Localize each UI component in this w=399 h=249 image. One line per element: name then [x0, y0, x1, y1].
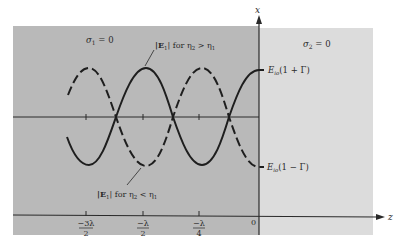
- standing-wave-diagram: x z −3λ 2 −λ 2 −λ 4 0 σ1 = 0 σ2 = 0 |E1|: [0, 0, 399, 249]
- origin-label: 0: [251, 218, 256, 227]
- svg-text:4: 4: [196, 229, 201, 238]
- x-axis-label: x: [255, 5, 260, 15]
- min-level-label: Eio(1 − Γ): [266, 162, 309, 173]
- region-2-medium: [259, 28, 373, 235]
- svg-text:−3λ: −3λ: [78, 219, 95, 228]
- svg-text:2: 2: [140, 229, 145, 238]
- svg-text:2: 2: [83, 229, 88, 238]
- max-level-label: Eio(1 + Γ): [267, 65, 310, 76]
- x-axis-arrow-icon: [256, 15, 262, 24]
- z-axis-arrow-icon: [376, 214, 385, 220]
- region-1-medium: [13, 26, 259, 235]
- svg-text:−λ: −λ: [193, 219, 205, 228]
- svg-text:−λ: −λ: [137, 219, 149, 228]
- z-axis-label: z: [387, 212, 393, 222]
- region-1-label: σ1 = 0: [86, 35, 114, 46]
- region-2-label: σ2 = 0: [303, 39, 331, 50]
